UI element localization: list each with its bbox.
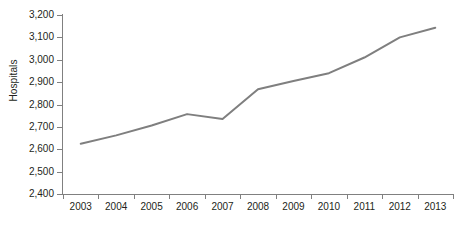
x-axis-line	[62, 194, 454, 195]
y-axis-tick-label-wrap: 3,100	[0, 32, 54, 42]
x-axis-tick-label: 2012	[380, 201, 420, 212]
x-tick-mark	[453, 194, 454, 199]
x-tick-mark	[382, 194, 383, 199]
y-tick-mark	[57, 105, 63, 106]
y-tick-mark	[57, 60, 63, 61]
x-axis-tick-label: 2007	[203, 201, 243, 212]
y-axis-tick-label: 3,100	[2, 32, 54, 42]
x-tick-mark	[98, 194, 99, 199]
line-chart: Hospitals 2,4002,5002,6002,7002,8002,900…	[0, 0, 466, 225]
y-axis-tick-label-wrap: 2,900	[0, 77, 54, 87]
y-axis-tick-label: 3,200	[2, 10, 54, 20]
x-axis-tick-label: 2003	[61, 201, 101, 212]
y-axis-tick-label: 2,700	[2, 122, 54, 132]
x-tick-mark	[240, 194, 241, 199]
x-axis-tick-label: 2006	[167, 201, 207, 212]
x-axis-tick-label: 2010	[309, 201, 349, 212]
x-axis-tick-label: 2004	[96, 201, 136, 212]
y-tick-mark	[57, 82, 63, 83]
y-axis-tick-label-wrap: 3,000	[0, 55, 54, 65]
x-tick-mark	[134, 194, 135, 199]
series-line-hospitals	[81, 28, 436, 144]
y-axis-tick-label-wrap: 2,700	[0, 122, 54, 132]
y-axis-tick-label: 2,800	[2, 100, 54, 110]
y-axis-tick-label-wrap: 2,800	[0, 100, 54, 110]
x-axis-tick-label: 2013	[415, 201, 455, 212]
data-series-line	[0, 0, 466, 225]
x-axis-tick-label: 2009	[273, 201, 313, 212]
x-axis-tick-label: 2008	[238, 201, 278, 212]
x-axis-tick-label: 2005	[132, 201, 172, 212]
x-tick-mark	[276, 194, 277, 199]
y-axis-tick-label: 3,000	[2, 55, 54, 65]
x-tick-mark	[347, 194, 348, 199]
y-tick-mark	[57, 15, 63, 16]
y-axis-tick-label-wrap: 2,400	[0, 189, 54, 199]
x-axis-tick-label: 2011	[344, 201, 384, 212]
y-tick-mark	[57, 149, 63, 150]
y-tick-mark	[57, 172, 63, 173]
y-tick-mark	[57, 127, 63, 128]
x-tick-mark	[311, 194, 312, 199]
y-axis-tick-label: 2,500	[2, 167, 54, 177]
y-axis-tick-label: 2,400	[2, 189, 54, 199]
y-axis-tick-label: 2,600	[2, 144, 54, 154]
y-axis-tick-label-wrap: 2,600	[0, 144, 54, 154]
y-tick-mark	[57, 37, 63, 38]
x-tick-mark	[205, 194, 206, 199]
y-axis-tick-label-wrap: 3,200	[0, 10, 54, 20]
x-tick-mark	[418, 194, 419, 199]
x-tick-mark	[63, 194, 64, 199]
y-axis-tick-label-wrap: 2,500	[0, 167, 54, 177]
y-axis-tick-label: 2,900	[2, 77, 54, 87]
x-tick-mark	[169, 194, 170, 199]
